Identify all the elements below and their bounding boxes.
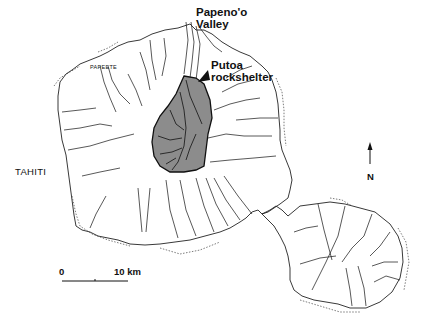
site-label-line1: Putoa xyxy=(211,59,273,71)
scale-end-label: 10 km xyxy=(114,267,141,277)
site-marker-icon xyxy=(198,70,210,82)
valley-label: Papeno'o Valley xyxy=(196,6,247,30)
scale-start-label: 0 xyxy=(59,267,64,277)
tahiti-map xyxy=(0,0,426,326)
island-label: TAHITI xyxy=(15,167,46,177)
site-label: Putoa rockshelter xyxy=(211,59,273,83)
north-label: N xyxy=(367,172,374,182)
north-arrow-icon xyxy=(368,142,373,164)
site-label-line2: rockshelter xyxy=(211,71,273,83)
scale-bar xyxy=(62,279,128,281)
town-label: PAPEETE xyxy=(90,65,117,71)
valley-label-line1: Papeno'o xyxy=(196,6,247,18)
valley-label-line2: Valley xyxy=(196,18,247,30)
shaded-catchment xyxy=(152,76,212,172)
